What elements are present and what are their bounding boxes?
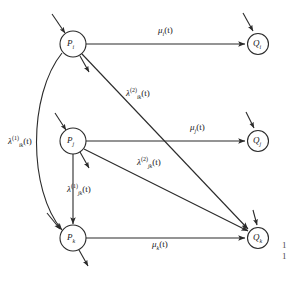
edge-label-sup: (2) — [130, 87, 137, 93]
edge-label-lambda-ik-1: λ(1)ik(t) — [8, 135, 32, 148]
edge-label-tail: (t) — [159, 239, 168, 249]
edge-label-sup: (2) — [141, 156, 148, 162]
external-arrow-arrival-Q_i — [243, 13, 253, 31]
node-label-sub: k — [73, 238, 76, 244]
edge-label-tail: (t) — [164, 25, 173, 35]
node-label-Q_i: Qi — [253, 39, 261, 50]
edge-label-tail: (t) — [82, 184, 91, 194]
caption-line-1: 1 — [282, 240, 287, 251]
external-arrow-arrival-P_j — [55, 113, 66, 130]
caption-line-2: 1 — [282, 251, 287, 262]
external-arrow-departure-P_k — [79, 250, 88, 266]
edge-label-sup: (1) — [12, 135, 19, 141]
node-label-sub: k — [260, 238, 263, 244]
edge-lambda-jk-2 — [84, 149, 248, 231]
node-label-Q_j: Qj — [253, 136, 261, 147]
edge-label-sup: (1) — [71, 183, 78, 189]
external-arrow-arrival-Q_j — [246, 112, 254, 128]
network-diagram — [0, 0, 293, 282]
edge-label-lambda-jk-1: λ(1)jk(t) — [67, 183, 91, 196]
edge-label-tail: (t) — [152, 157, 161, 167]
external-arrow-arrival-P_k — [47, 213, 60, 229]
caption-fragment: 1 1 — [282, 240, 287, 263]
node-label-P_j: Pj — [67, 136, 74, 147]
edge-label-mu-k: μk(t) — [152, 240, 168, 251]
node-label-Q_k: Qk — [253, 233, 262, 244]
node-label-P_i: Pi — [67, 39, 74, 50]
external-arrow-departure-P_j — [80, 152, 89, 168]
edge-label-tail: (t) — [23, 136, 32, 146]
edge-label-lambda-ik-2: λ(2)ik(t) — [126, 87, 150, 100]
edge-label-mu-j: μj(t) — [190, 123, 205, 134]
external-arrow-departure-P_i — [80, 56, 89, 72]
edge-label-lambda-jk-2: λ(2)jk(t) — [137, 156, 161, 169]
node-label-sub: j — [260, 141, 262, 147]
external-arrow-arrival-Q_k — [253, 210, 257, 225]
figure-canvas: Pi Pj Pk Qi Qj Qk μi(t) μj(t) μk(t) λ(2)… — [0, 0, 293, 282]
node-label-sub: i — [260, 44, 262, 50]
edge-label-mu-i: μi(t) — [158, 26, 173, 37]
edge-label-tail: (t) — [141, 88, 150, 98]
node-label-sub: i — [73, 44, 75, 50]
external-arrow-arrival-P_i — [52, 14, 65, 33]
edge-label-tail: (t) — [196, 122, 205, 132]
node-label-P_k: Pk — [67, 233, 75, 244]
node-label-sub: j — [73, 141, 75, 147]
edge-lambda-ik-1 — [37, 53, 63, 230]
